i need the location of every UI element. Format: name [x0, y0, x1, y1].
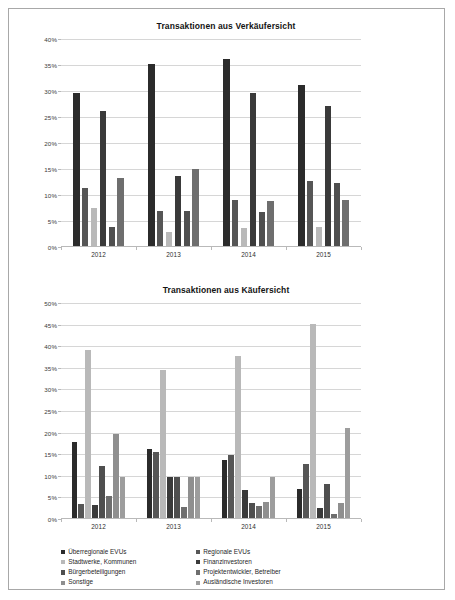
bar: [188, 477, 194, 518]
bar: [109, 227, 116, 246]
legend-label: Finanzinvestoren: [203, 559, 252, 565]
x-axis-tick-label: 2015: [316, 523, 331, 530]
bar: [192, 169, 199, 246]
chart-verkaeufersicht: Transaktionen aus Verkäufersicht 0%5%10%…: [21, 17, 431, 267]
y-axis-tick-label: 0%: [48, 516, 57, 523]
bar: [235, 356, 241, 518]
bar: [92, 505, 98, 518]
x-axis-separator: [361, 247, 362, 250]
legend-column-2: Regionale EVUsFinanzinvestorenProjektent…: [196, 547, 331, 588]
bar: [228, 455, 234, 518]
bar: [85, 350, 91, 518]
bar: [241, 228, 248, 246]
legend-label: Ausländische Investoren: [203, 579, 273, 585]
legend-swatch-icon: [196, 581, 200, 585]
y-axis-tick-label: 0%: [48, 244, 57, 251]
y-axis-tick-label: 35%: [44, 62, 57, 69]
bar: [91, 208, 98, 246]
y-axis-tick-label: 30%: [44, 386, 57, 393]
x-axis-separator: [136, 247, 137, 250]
y-axis-tick-label: 15%: [44, 451, 57, 458]
legend-label: Sonstige: [68, 579, 93, 585]
legend-item: Sonstige: [61, 578, 196, 588]
chart-legend: Überregionale EVUsStadtwerke, KommunenBü…: [61, 547, 391, 588]
legend-item: Überregionale EVUs: [61, 547, 196, 557]
legend-label: Überregionale EVUs: [68, 549, 126, 555]
bar: [345, 428, 351, 518]
bar: [334, 183, 341, 246]
x-axis-tick-label: 2012: [91, 523, 106, 530]
legend-label: Bürgerbeteiligungen: [68, 569, 125, 575]
y-axis-tick-label: 25%: [44, 408, 57, 415]
bar-group-2013: [136, 303, 211, 518]
x-axis-separator: [61, 519, 62, 522]
y-axis-tick-label: 40%: [44, 36, 57, 43]
bar: [157, 211, 164, 246]
chart2-plot-area: 0%5%10%15%20%25%30%35%40%45%50%201220132…: [21, 297, 431, 541]
bar: [148, 64, 155, 246]
bar: [303, 464, 309, 518]
legend-swatch-icon: [196, 550, 200, 554]
bar: [256, 506, 262, 518]
bar-group-2012: [61, 39, 136, 246]
bar: [153, 452, 159, 518]
y-axis-tick-label: 20%: [44, 140, 57, 147]
x-axis-separator: [61, 247, 62, 250]
bar-group-2014: [211, 303, 286, 518]
y-axis-tick-label: 25%: [44, 114, 57, 121]
chart2-axes: 0%5%10%15%20%25%30%35%40%45%50%: [61, 303, 361, 519]
bar: [223, 59, 230, 246]
bar: [324, 484, 330, 518]
y-axis-tick-label: 20%: [44, 429, 57, 436]
chart-kaeufersicht: Transaktionen aus Käufersicht 0%5%10%15%…: [21, 281, 431, 541]
y-axis-tick-label: 30%: [44, 88, 57, 95]
bar: [259, 212, 266, 246]
bar: [298, 85, 305, 246]
bar: [117, 178, 124, 246]
bar: [167, 477, 173, 518]
x-axis-tick-label: 2013: [166, 251, 181, 258]
bar-group-2015: [286, 303, 361, 518]
x-axis-separator: [211, 519, 212, 522]
x-axis-separator: [286, 519, 287, 522]
chart1-axes: 0%5%10%15%20%25%30%35%40%: [61, 39, 361, 247]
bar: [317, 508, 323, 518]
legend-item: Bürgerbeteiligungen: [61, 567, 196, 577]
x-axis-separator: [361, 519, 362, 522]
legend-column-1: Überregionale EVUsStadtwerke, KommunenBü…: [61, 547, 196, 588]
bar-group-2015: [286, 39, 361, 246]
bar: [174, 477, 180, 518]
y-axis-tick-label: 5%: [48, 218, 57, 225]
y-axis-tick-label: 10%: [44, 472, 57, 479]
bar: [338, 503, 344, 518]
bar: [73, 93, 80, 246]
bar: [106, 496, 112, 518]
bar: [267, 201, 274, 246]
x-axis-tick-label: 2014: [241, 523, 256, 530]
bar: [175, 176, 182, 246]
legend-item: Projektentwickler, Betreiber: [196, 567, 331, 577]
bar: [342, 200, 349, 246]
bar: [232, 200, 239, 246]
legend-label: Projektentwickler, Betreiber: [203, 569, 280, 575]
bar: [222, 460, 228, 518]
bar: [270, 477, 276, 518]
legend-item: Ausländische Investoren: [196, 578, 331, 588]
document-page: Transaktionen aus Verkäufersicht 0%5%10%…: [8, 8, 445, 590]
bar: [160, 370, 166, 518]
bar: [249, 503, 255, 518]
legend-swatch-icon: [196, 570, 200, 574]
bar: [263, 502, 269, 518]
bar: [82, 188, 89, 246]
bar: [297, 489, 303, 518]
bar: [113, 434, 119, 518]
chart1-title: Transaktionen aus Verkäufersicht: [21, 17, 431, 33]
legend-swatch-icon: [61, 570, 65, 574]
bar: [195, 477, 201, 518]
x-axis-separator: [136, 519, 137, 522]
x-axis-separator: [286, 247, 287, 250]
y-axis-tick-label: 35%: [44, 364, 57, 371]
legend-item: Finanzinvestoren: [196, 557, 331, 567]
bar: [72, 442, 78, 518]
bar: [147, 449, 153, 518]
